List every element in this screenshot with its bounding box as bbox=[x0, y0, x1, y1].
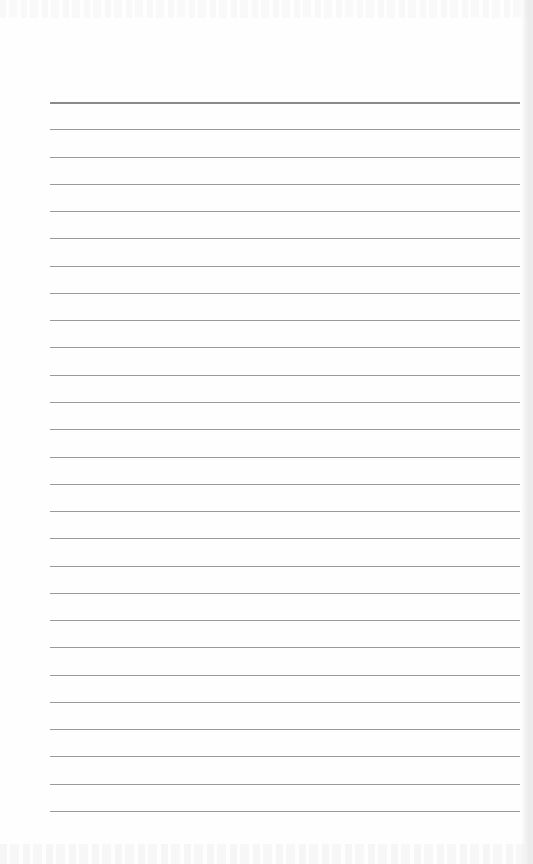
rule-line bbox=[50, 702, 520, 703]
lined-paper-page bbox=[0, 0, 533, 864]
header-rule-line bbox=[50, 102, 520, 104]
rule-line bbox=[50, 756, 520, 757]
rule-line bbox=[50, 184, 520, 185]
rule-line bbox=[50, 566, 520, 567]
rule-line bbox=[50, 129, 520, 130]
rule-line bbox=[50, 320, 520, 321]
rule-line bbox=[50, 784, 520, 785]
rule-line bbox=[50, 675, 520, 676]
rule-line bbox=[50, 238, 520, 239]
rule-line bbox=[50, 375, 520, 376]
rule-line bbox=[50, 511, 520, 512]
rule-line bbox=[50, 457, 520, 458]
rule-line bbox=[50, 293, 520, 294]
rule-line bbox=[50, 729, 520, 730]
scan-bleed-through-bottom bbox=[0, 844, 533, 864]
rule-line bbox=[50, 157, 520, 158]
rule-line bbox=[50, 347, 520, 348]
rule-line bbox=[50, 620, 520, 621]
rule-line bbox=[50, 429, 520, 430]
page-edge-shadow bbox=[521, 0, 533, 864]
rule-line bbox=[50, 647, 520, 648]
rule-line bbox=[50, 266, 520, 267]
rule-line bbox=[50, 402, 520, 403]
scan-bleed-through-top bbox=[0, 0, 533, 18]
rule-line bbox=[50, 484, 520, 485]
rule-line bbox=[50, 538, 520, 539]
rule-line bbox=[50, 211, 520, 212]
rule-line bbox=[50, 811, 520, 812]
rule-line bbox=[50, 593, 520, 594]
